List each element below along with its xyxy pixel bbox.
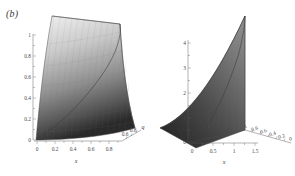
left-xtick-0: 0 [36,146,39,152]
left-xtick-4: 0.8 [106,146,113,152]
left-xtick-3: 0.6 [88,146,95,152]
right-ztick-2: 2 [183,90,186,96]
left-qtick-0: 0.6 [122,131,129,137]
right-depthtick-1: 0.8 [250,125,259,133]
right-ztick-3: 3 [183,65,186,71]
surface-plot-left: 0 0.2 0.4 0.6 0.8 1 0 0 [0,0,147,176]
left-ztick-1: 0.2 [24,116,31,122]
right-depthtick-3: 0.4 [268,130,277,138]
right-depthtick-4: 0.2 [277,132,286,140]
left-qtick-1: 0.8 [130,127,137,133]
right-xaxis-label: x [222,159,226,165]
left-ztick-5: 1 [28,32,31,38]
right-ztick-1: 1 [183,115,186,121]
left-ztick-4: 0.8 [24,53,31,59]
right-xtick-1: 0.5 [210,148,217,154]
surface-plot-right: 0 1 2 3 4 0 0.5 1 1.5 x [148,0,295,176]
right-ztick-4: 4 [183,40,186,46]
left-ztick-2: 0.4 [24,95,31,101]
right-ztick-0: 0 [183,139,186,145]
right-depth-axis: 1 0.8 0.6 0.4 0.2 0 [243,123,293,143]
left-xaxis-label: x [74,158,78,164]
right-plot-svg: 0 1 2 3 4 0 0.5 1 1.5 x [148,0,295,176]
figure-container: (b) [0,0,295,176]
left-z-axis: 0 0.2 0.4 0.6 0.8 1 [24,32,36,143]
left-qaxis-label: q [142,124,145,130]
right-depthtick-5: 0 [288,135,293,142]
left-xtick-1: 0.2 [52,146,59,152]
right-depthtick-2: 0.6 [259,127,268,135]
left-x-axis: 0 0.2 0.4 0.6 0.8 x [34,141,122,164]
right-xtick-2: 1 [233,148,236,154]
right-surface-body [160,16,245,148]
left-ztick-0: 0 [28,137,31,143]
right-xtick-3: 1.5 [252,148,259,154]
right-xtick-0: 0 [191,148,194,154]
right-depthtick-0: 1 [243,123,248,130]
left-ztick-3: 0.6 [24,74,31,80]
left-plot-svg: 0 0.2 0.4 0.6 0.8 1 0 0 [0,0,147,176]
left-xtick-2: 0.4 [70,146,77,152]
